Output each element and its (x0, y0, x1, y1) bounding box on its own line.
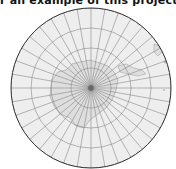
projection-map (0, 0, 176, 169)
dense-pole-marker (88, 85, 94, 91)
